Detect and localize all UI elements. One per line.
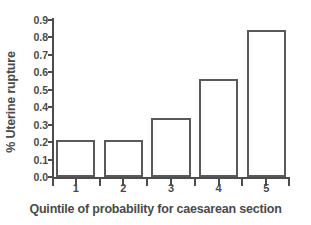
y-axis-tick-mark bbox=[48, 54, 52, 56]
bar-chart-figure: % Uterine rupture 0.00.10.20.30.40.50.60… bbox=[0, 0, 311, 225]
x-axis-tick-label: 5 bbox=[256, 182, 276, 195]
y-axis-tick-label: 0.9 bbox=[24, 15, 48, 25]
y-axis-tick-mark bbox=[48, 124, 52, 126]
bar bbox=[151, 118, 190, 177]
y-axis-tick-label: 0.3 bbox=[24, 120, 48, 130]
y-axis-tick-mark bbox=[48, 176, 52, 178]
y-axis-tick-mark bbox=[48, 71, 52, 73]
y-axis-tick-label: 0.1 bbox=[24, 155, 48, 165]
y-axis-tick-label: 0.2 bbox=[24, 137, 48, 147]
x-axis-tick-label: 4 bbox=[209, 182, 229, 195]
y-axis-spine bbox=[52, 18, 54, 179]
bar bbox=[247, 30, 286, 177]
bar bbox=[199, 79, 238, 177]
x-axis-tick-labels: 12345 bbox=[52, 182, 290, 198]
y-axis-tick-label: 0.8 bbox=[24, 32, 48, 42]
y-axis-tick-label: 0.5 bbox=[24, 85, 48, 95]
x-axis-tick-label: 1 bbox=[66, 182, 86, 195]
y-axis-tick-mark bbox=[48, 159, 52, 161]
bar bbox=[56, 140, 95, 177]
y-axis-tick-label: 0.7 bbox=[24, 50, 48, 60]
y-axis-tick-label: 0.6 bbox=[24, 67, 48, 77]
y-axis-tick-label: 0.4 bbox=[24, 102, 48, 112]
x-axis-tick-label: 3 bbox=[161, 182, 181, 195]
x-axis-tick-label: 2 bbox=[113, 182, 133, 195]
plot-area bbox=[52, 20, 290, 177]
y-axis-tick-label: 0.0 bbox=[24, 172, 48, 182]
bar bbox=[104, 140, 143, 177]
y-axis-tick-mark bbox=[48, 36, 52, 38]
y-axis-tick-labels: 0.00.10.20.30.40.50.60.70.80.9 bbox=[24, 16, 48, 177]
y-axis-tick-mark bbox=[48, 89, 52, 91]
y-axis-tick-mark bbox=[48, 19, 52, 21]
x-axis-title: Quintile of probability for caesarean se… bbox=[0, 202, 311, 216]
y-axis-tick-mark bbox=[48, 106, 52, 108]
y-axis-title: % Uterine rupture bbox=[2, 12, 20, 192]
y-axis-tick-mark bbox=[48, 141, 52, 143]
